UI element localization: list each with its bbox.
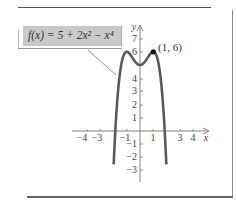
point-label: (1, 6): [158, 41, 182, 54]
x-axis: −4 −3 −1 1 3 4 x: [72, 128, 209, 143]
x-tick-label: 1: [151, 132, 156, 143]
point-marker: [151, 49, 156, 54]
x-axis-label: x: [203, 132, 209, 143]
x-tick-label: 3: [178, 132, 183, 143]
y-tick-label: 1: [132, 112, 137, 123]
y-tick-label: 6: [132, 46, 137, 57]
x-tick-label: −3: [92, 132, 103, 143]
y-tick-label: 3: [132, 85, 137, 96]
leader-line: [88, 50, 116, 75]
y-tick-label: 2: [132, 99, 137, 110]
x-tick-label: 4: [191, 132, 196, 143]
y-tick-label: −3: [126, 164, 137, 175]
y-tick-label: 7: [132, 33, 137, 44]
function-plot: −4 −3 −1 1 3 4 x 7 6 4 3 2 1 −1 −2 −3 y …: [0, 0, 237, 208]
y-tick-label: −1: [126, 138, 137, 149]
x-tick-label: −4: [77, 132, 88, 143]
y-tick-label: 4: [132, 73, 137, 84]
y-axis-label: y: [131, 21, 137, 32]
y-tick-label: −2: [126, 151, 137, 162]
y-axis: 7 6 4 3 2 1 −1 −2 −3 y: [126, 21, 143, 182]
